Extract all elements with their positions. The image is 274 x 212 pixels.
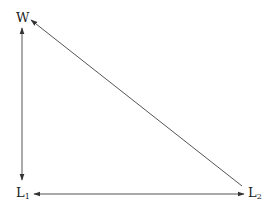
node-w-text: W	[16, 10, 29, 25]
node-l1-label: L1	[16, 186, 30, 201]
node-w-label: W	[16, 11, 29, 24]
node-l1-subscript: 1	[25, 192, 30, 201]
node-l2-subscript: 2	[257, 192, 262, 201]
edge-l2-w	[31, 20, 242, 186]
diagram-canvas	[0, 0, 274, 212]
node-l2-label: L2	[248, 186, 262, 201]
node-l1-text: L	[16, 185, 25, 200]
node-l2-text: L	[248, 185, 257, 200]
